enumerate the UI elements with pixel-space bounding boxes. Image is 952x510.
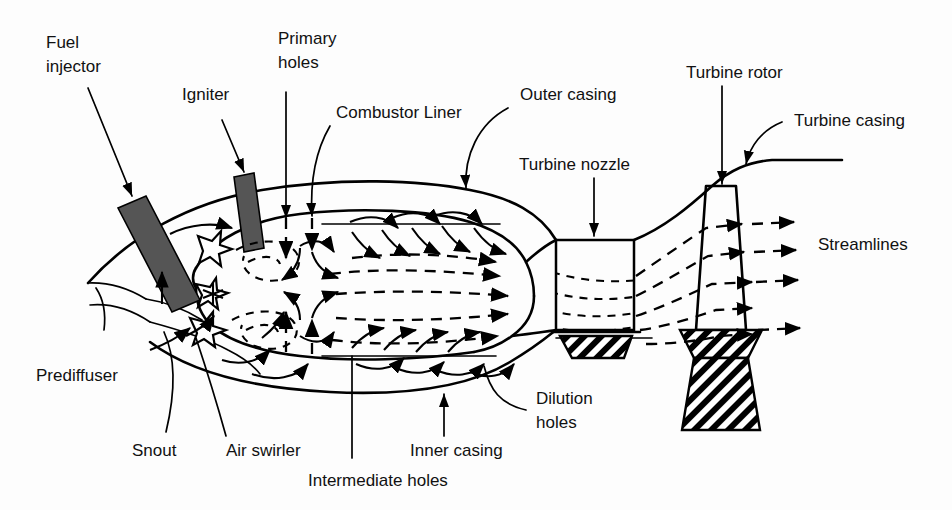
label-turbine-casing: Turbine casing [794, 111, 905, 130]
label-dilution-holes-line2: holes [536, 413, 577, 432]
label-dilution-holes-line1: Dilution [536, 389, 593, 408]
label-combustor-liner: Combustor Liner [336, 103, 462, 122]
label-prediffuser: Prediffuser [36, 366, 118, 385]
label-outer-casing: Outer casing [520, 85, 616, 104]
combustor-schematic-svg: Fuel injector Igniter Primary holes Comb… [0, 0, 952, 510]
label-intermediate-holes: Intermediate holes [308, 471, 448, 490]
label-primary-holes-line2: holes [278, 53, 319, 72]
combustor-diagram: Fuel injector Igniter Primary holes Comb… [0, 0, 952, 510]
label-turbine-rotor: Turbine rotor [686, 63, 783, 82]
label-primary-holes-line1: Primary [278, 29, 337, 48]
label-fuel-injector-line1: Fuel [46, 33, 79, 52]
label-igniter: Igniter [182, 85, 230, 104]
label-air-swirler: Air swirler [226, 441, 301, 460]
label-inner-casing: Inner casing [410, 441, 503, 460]
label-turbine-nozzle: Turbine nozzle [519, 155, 630, 174]
label-fuel-injector-line2: injector [46, 57, 101, 76]
label-streamlines: Streamlines [818, 235, 908, 254]
label-snout: Snout [132, 441, 177, 460]
